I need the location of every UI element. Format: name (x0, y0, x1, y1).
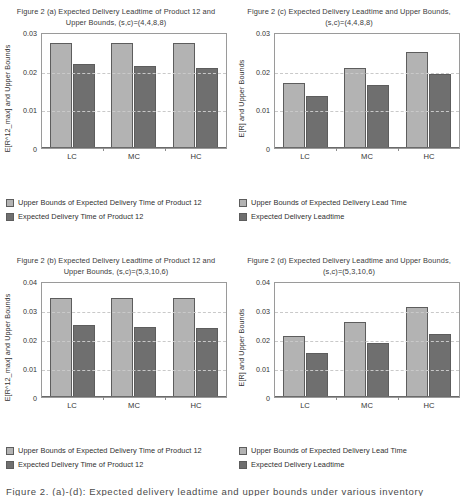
bar (50, 43, 72, 148)
panel-c-legend: Upper Bounds of Expected Delivery Lead T… (239, 198, 464, 226)
y-tick-label: 0.03 (256, 307, 270, 316)
figure-panel-c: Figure 2 (c) Expected Delivery Leadtime … (233, 0, 465, 248)
panel-d-bar-groups (275, 283, 459, 397)
bar (367, 85, 389, 148)
panel-d-chart: E[R] and Upper Bounds 00.010.020.030.04 … (233, 282, 465, 412)
legend-item: Upper Bounds of Expected Delivery Lead T… (239, 446, 464, 455)
x-tick-label: LC (41, 401, 103, 410)
panel-b-chart: E[R^12_max] and Upper Bounds 00.010.020.… (0, 282, 232, 412)
bar-group (336, 283, 397, 397)
panel-b-title: Figure 2 (b) Expected Delivery Leadtime … (0, 250, 232, 277)
bar-group (42, 283, 103, 397)
panel-b-bar-groups (42, 283, 226, 397)
bar-group (103, 283, 164, 397)
panel-b-legend: Upper Bounds of Expected Delivery Time o… (6, 446, 231, 474)
panel-b-y-ticks: 00.010.020.030.04 (14, 282, 40, 398)
x-tick-label: MC (103, 152, 165, 161)
x-tick-label: LC (274, 152, 336, 161)
panel-b-axis-baseline (42, 396, 226, 397)
y-tick-label: 0.02 (23, 67, 37, 76)
bar (134, 327, 156, 397)
y-tick-label: 0.01 (256, 106, 270, 115)
gridline (42, 341, 226, 342)
panel-a-x-tick-labels: LCMCHC (41, 152, 227, 161)
bar (429, 334, 451, 397)
bar (173, 43, 195, 148)
legend-swatch-icon (239, 461, 247, 469)
y-tick-label: 0 (33, 145, 37, 154)
panel-a-title: Figure 2 (a) Expected Delivery Leadtime … (0, 0, 232, 28)
bar (306, 96, 328, 148)
bar-group (42, 34, 103, 148)
gridline (275, 73, 459, 74)
legend-label: Upper Bounds of Expected Delivery Time o… (18, 198, 202, 207)
legend-swatch-icon (6, 213, 14, 221)
panel-d-y-axis-label-text: E[R] and Upper Bounds (237, 308, 246, 386)
panel-a-plot-area (41, 33, 227, 149)
y-tick-label: 0.04 (256, 278, 270, 287)
x-tick-label: HC (398, 152, 460, 161)
bar (283, 83, 305, 148)
x-tick-label: MC (336, 152, 398, 161)
legend-swatch-icon (239, 213, 247, 221)
gridline (275, 370, 459, 371)
bar (111, 43, 133, 148)
gridline (275, 341, 459, 342)
gridline (42, 73, 226, 74)
panel-a-chart: E[R^12_max] and Upper Bounds 00.010.020.… (0, 33, 232, 163)
bar (344, 322, 366, 397)
bar-group (165, 283, 226, 397)
legend-label: Expected Delivery Time of Product 12 (18, 212, 143, 221)
y-tick-label: 0 (266, 145, 270, 154)
y-tick-label: 0.02 (256, 67, 270, 76)
panel-d-y-axis-label: E[R] and Upper Bounds (235, 282, 247, 412)
y-tick-label: 0.02 (23, 336, 37, 345)
bar (111, 298, 133, 397)
y-tick-label: 0.01 (23, 365, 37, 374)
panel-d-title: Figure 2 (d) Expected Delivery Leadtime … (233, 250, 465, 277)
panel-c-y-ticks: 00.010.020.03 (247, 33, 273, 149)
x-tick-label: MC (103, 401, 165, 410)
y-tick-label: 0.03 (23, 29, 37, 38)
bar (196, 68, 218, 148)
panel-b-y-axis-label-text: E[R^12_max] and Upper Bounds (4, 293, 13, 401)
y-tick-label: 0.03 (256, 29, 270, 38)
figure-page: Figure 2 (a) Expected Delivery Leadtime … (0, 0, 465, 496)
x-tick-label: LC (274, 401, 336, 410)
bar-group (398, 34, 459, 148)
panel-c-x-tick-labels: LCMCHC (274, 152, 460, 161)
legend-label: Expected Delivery Time of Product 12 (18, 460, 143, 469)
panel-a-legend: Upper Bounds of Expected Delivery Time o… (6, 198, 231, 226)
legend-swatch-icon (239, 447, 247, 455)
panel-d-plot-area (274, 282, 460, 398)
panel-d-legend: Upper Bounds of Expected Delivery Lead T… (239, 446, 464, 474)
y-tick-label: 0.04 (23, 278, 37, 287)
gridline (42, 312, 226, 313)
gridline (42, 370, 226, 371)
x-tick-label: LC (41, 152, 103, 161)
bar-group (165, 34, 226, 148)
bar (196, 328, 218, 397)
legend-item: Upper Bounds of Expected Delivery Lead T… (239, 198, 464, 207)
panel-c-axis-baseline (275, 147, 459, 148)
legend-label: Expected Delivery Leadtime (251, 212, 344, 221)
panel-c-title: Figure 2 (c) Expected Delivery Leadtime … (233, 0, 465, 28)
x-tick-label: HC (398, 401, 460, 410)
y-tick-label: 0.02 (256, 336, 270, 345)
legend-item: Upper Bounds of Expected Delivery Time o… (6, 446, 231, 455)
x-tick-label: HC (165, 401, 227, 410)
legend-label: Upper Bounds of Expected Delivery Lead T… (251, 198, 407, 207)
panel-c-y-axis-label: E[R] and Upper Bounds (235, 33, 247, 163)
panel-d-x-tick-labels: LCMCHC (274, 401, 460, 410)
gridline (275, 111, 459, 112)
figure-caption-cutoff: Figure 2. (a)-(d): Expected delivery lea… (6, 487, 461, 496)
panel-a-y-axis-label: E[R^12_max] and Upper Bounds (2, 33, 14, 163)
bar (173, 298, 195, 397)
x-tick-label: MC (336, 401, 398, 410)
bar-group (275, 283, 336, 397)
legend-swatch-icon (6, 199, 14, 207)
bar (134, 66, 156, 148)
gridline (42, 111, 226, 112)
legend-item: Expected Delivery Time of Product 12 (6, 212, 231, 221)
panel-b-plot-area (41, 282, 227, 398)
